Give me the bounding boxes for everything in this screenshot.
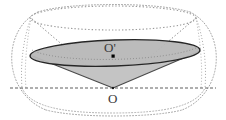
label-apex: O: [108, 92, 117, 105]
label-section-center: O': [104, 41, 116, 54]
left-fan-line-1: [21, 18, 31, 88]
left-fan-line-2: [25, 18, 31, 88]
apex-vertex-marker: [112, 87, 114, 89]
geometry-figure: O' O: [0, 0, 226, 120]
left-dotted-fan: [21, 18, 31, 88]
top-rim-ellipse: [30, 6, 196, 30]
